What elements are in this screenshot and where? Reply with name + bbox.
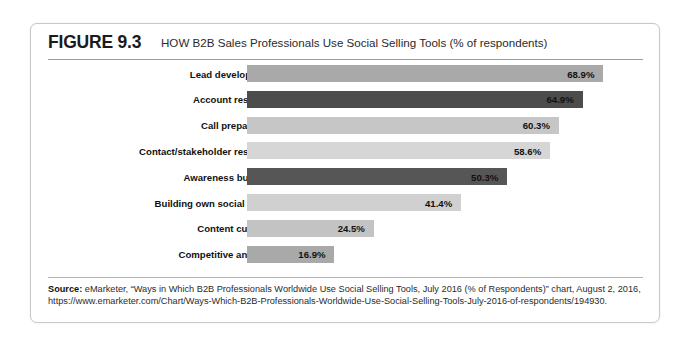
chart-row: Competitive analysis16.9% (31, 246, 659, 263)
bar-value-label: 50.3% (471, 171, 498, 182)
bar-value-label: 64.9% (547, 94, 574, 105)
chart-row: Building own social brand41.4% (31, 194, 659, 211)
bar (247, 65, 603, 82)
figure-header: FIGURE 9.3 HOW B2B Sales Professionals U… (31, 24, 659, 59)
source-note: Source: eMarketer, “Ways in Which B2B Pr… (48, 283, 645, 308)
figure-title: HOW B2B Sales Professionals Use Social S… (161, 36, 547, 49)
bar (247, 142, 550, 159)
bar-value-label: 16.9% (298, 249, 325, 260)
chart-row: Contact/stakeholder research58.6% (31, 142, 659, 159)
figure-number: FIGURE 9.3 (48, 32, 141, 53)
chart-row: Account research64.9% (31, 91, 659, 108)
source-prefix: Source: (48, 284, 82, 294)
bar-value-label: 60.3% (523, 120, 550, 131)
figure-card: FIGURE 9.3 HOW B2B Sales Professionals U… (30, 23, 660, 323)
bar-value-label: 24.5% (338, 223, 365, 234)
chart-row: Awareness building50.3% (31, 168, 659, 185)
chart-row: Lead development68.9% (31, 65, 659, 82)
bar (247, 168, 507, 185)
chart-row: Call preparation60.3% (31, 117, 659, 134)
bar-value-label: 58.6% (514, 145, 541, 156)
source-text: eMarketer, “Ways in Which B2B Profession… (48, 284, 641, 306)
footer-divider (48, 277, 643, 278)
bar (247, 91, 583, 108)
header-divider (48, 59, 643, 60)
bar-chart: Lead development68.9%Account research64.… (31, 64, 659, 272)
bar-value-label: 68.9% (567, 68, 594, 79)
bar (247, 117, 559, 134)
bar-value-label: 41.4% (425, 197, 452, 208)
chart-row: Content curation24.5% (31, 220, 659, 237)
